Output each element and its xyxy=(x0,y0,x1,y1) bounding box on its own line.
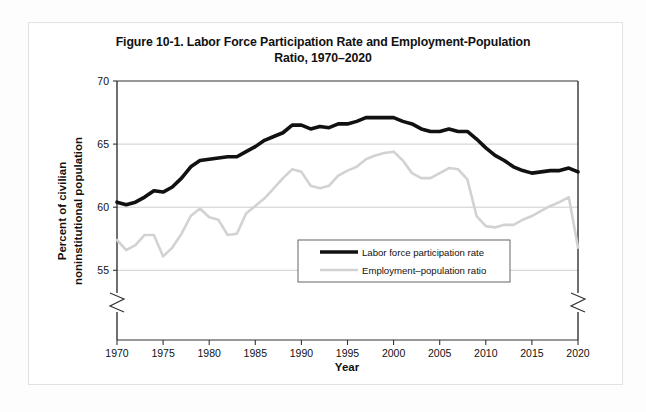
x-tick-labels: 1970197519801985199019952000200520102015… xyxy=(105,347,590,359)
y-tick-label: 70 xyxy=(97,75,109,87)
x-tick-label: 1995 xyxy=(336,347,360,359)
y-axis-title: Percent of civilian noninstitutional pop… xyxy=(56,137,84,285)
y-tick-label: 55 xyxy=(97,264,109,276)
legend: Labor force participation rate Employmen… xyxy=(298,240,510,282)
y-tick-label: 60 xyxy=(97,201,109,213)
x-tick-label: 2005 xyxy=(428,347,452,359)
x-tick-label: 2015 xyxy=(520,347,544,359)
axis-break-left xyxy=(110,293,124,312)
x-tick-label: 1990 xyxy=(290,347,314,359)
x-tick-label: 1985 xyxy=(244,347,268,359)
y-tick-label: 65 xyxy=(97,138,109,150)
axis-break-right xyxy=(571,293,585,312)
legend-label-series2: Employment–population ratio xyxy=(362,265,486,276)
x-tick-label: 2000 xyxy=(382,347,406,359)
chart-canvas: 55606570 1970197519801985199019952000200… xyxy=(0,0,646,412)
series-labor-force-participation-rate xyxy=(117,118,578,205)
x-axis-title: Year xyxy=(335,361,360,373)
x-tick-marks xyxy=(117,340,578,345)
axis-break-marks xyxy=(110,293,585,312)
legend-label-series1: Labor force participation rate xyxy=(362,247,484,258)
x-tick-label: 2010 xyxy=(474,347,498,359)
y-axis-title-line1: Percent of civilian xyxy=(56,162,68,260)
x-tick-label: 1970 xyxy=(105,347,129,359)
axis-lines xyxy=(117,81,578,340)
y-axis-title-line2: noninstitutional population xyxy=(72,137,84,285)
x-tick-label: 1975 xyxy=(151,347,175,359)
figure-root: Figure 10-1. Labor Force Participation R… xyxy=(0,0,646,412)
x-tick-label: 2020 xyxy=(566,347,590,359)
x-tick-label: 1980 xyxy=(198,347,222,359)
y-tick-labels: 55606570 xyxy=(97,75,109,276)
